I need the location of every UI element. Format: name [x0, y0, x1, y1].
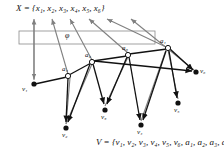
branch-edge-a1-v4	[143, 51, 166, 120]
node-label-v2: v₂	[62, 132, 68, 139]
branch-edge-a2-v3	[93, 64, 104, 104]
set-v-label: V = {v₁, v₂, v₃, v₄, v₅, v₆, a₁, a₂, a₃,…	[96, 138, 224, 147]
phi-label: φ	[65, 32, 69, 40]
node-label-v5: v₅	[174, 107, 180, 114]
branch-edge-a1-v5	[169, 51, 177, 98]
node-a4	[65, 73, 70, 78]
node-v1	[31, 81, 36, 86]
tree-edge-a3-a1	[129, 49, 167, 54]
node-label-a4: a₄	[62, 66, 68, 73]
branch-edge-a1-v6	[170, 49, 193, 70]
phi-box	[19, 31, 155, 44]
node-v6	[193, 69, 198, 74]
node-a1	[165, 45, 170, 50]
mapping-edges	[34, 19, 194, 124]
node-label-a1: a₁	[160, 38, 166, 45]
tree-edge-v1-a4	[35, 77, 67, 84]
node-v5	[175, 100, 180, 105]
node-v2	[63, 125, 68, 130]
branch-edge-a2-v6	[94, 61, 192, 71]
node-a3	[125, 52, 130, 57]
node-label-a3: a₃	[122, 45, 128, 52]
node-label-a2: a₂	[85, 52, 91, 59]
set-x-label: X = {x₁, x₂, x₃, x₄, x₅, x₆}	[16, 4, 105, 13]
node-label-v6: v₆	[200, 68, 206, 75]
tree-edge-a2-a3	[93, 56, 127, 61]
node-label-v1: v₁	[22, 86, 28, 93]
figure-canvas: X = {x₁, x₂, x₃, x₄, x₅, x₆} φ V = {v₁, …	[0, 0, 224, 153]
node-a2	[89, 59, 94, 64]
diagram-svg	[0, 0, 224, 153]
node-label-v4: v₄	[137, 129, 143, 136]
node-v3	[102, 107, 107, 112]
node-label-v3: v₃	[101, 114, 107, 121]
node-v4	[138, 122, 143, 127]
branch-edge-a2-v2	[68, 64, 90, 122]
branch-edge-a3-v4	[129, 57, 140, 120]
